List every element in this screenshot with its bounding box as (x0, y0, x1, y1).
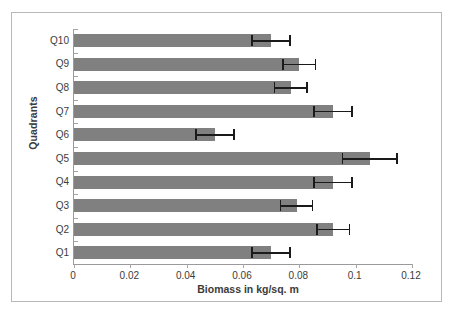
y-tick-label-q2: Q2 (21, 224, 69, 235)
x-axis-tick-labels: 00.020.040.060.080.10.12 (73, 270, 412, 284)
bar-q2 (74, 223, 333, 236)
error-bar-line (274, 87, 308, 89)
error-bar-cap (315, 59, 317, 70)
error-bar-cap (274, 82, 276, 93)
y-tick-label-q9: Q9 (21, 58, 69, 69)
bar-q9 (74, 58, 299, 71)
error-bar-cap (282, 59, 284, 70)
bar-row (74, 147, 412, 171)
error-bar-line (251, 40, 290, 42)
error-bar-cap (289, 247, 291, 258)
bar-q8 (74, 81, 291, 94)
bar-row (74, 123, 412, 147)
error-bar-line (313, 111, 352, 113)
error-bar-cap (233, 129, 235, 140)
error-bar-line (280, 205, 314, 207)
bar-q3 (74, 199, 297, 212)
y-tick-label-q8: Q8 (21, 82, 69, 93)
y-tick-mark (74, 147, 78, 148)
x-tick-mark (74, 264, 75, 268)
error-bar-line (313, 182, 352, 184)
bar-row (74, 76, 412, 100)
x-tick-label-2: 0.04 (164, 270, 208, 282)
y-tick-mark (74, 29, 78, 30)
y-tick-mark (74, 123, 78, 124)
bar-row (74, 100, 412, 124)
error-bar-cap (396, 153, 398, 164)
y-tick-label-q3: Q3 (21, 200, 69, 211)
x-tick-mark (187, 264, 188, 268)
error-bar-cap (251, 35, 253, 46)
error-bar-line (342, 158, 398, 160)
bar-q1 (74, 246, 271, 259)
plot-area (73, 29, 412, 265)
x-tick-mark (412, 264, 413, 268)
x-tick-label-3: 0.06 (220, 270, 264, 282)
error-bar-cap (251, 247, 253, 258)
bar-row (74, 171, 412, 195)
x-tick-mark (130, 264, 131, 268)
x-tick-label-6: 0.12 (389, 270, 433, 282)
error-bar-line (282, 64, 316, 66)
x-axis-title: Biomass in kg/sq. m (73, 283, 423, 295)
y-tick-mark (74, 194, 78, 195)
y-tick-mark (74, 218, 78, 219)
error-bar-line (316, 229, 350, 231)
bar-q7 (74, 105, 333, 118)
error-bar-line (195, 134, 234, 136)
bar-row (74, 218, 412, 242)
error-bar-line (251, 252, 290, 254)
bar-row (74, 194, 412, 218)
bar-q5 (74, 152, 370, 165)
error-bar-cap (195, 129, 197, 140)
y-tick-mark (74, 53, 78, 54)
error-bar-cap (313, 106, 315, 117)
error-bar-cap (313, 177, 315, 188)
y-axis-tick-labels: Q1Q2Q3Q4Q5Q6Q7Q8Q9Q10 (17, 29, 69, 265)
y-tick-label-q1: Q1 (21, 247, 69, 258)
error-bar-cap (351, 177, 353, 188)
y-tick-label-q4: Q4 (21, 176, 69, 187)
error-bar-cap (342, 153, 344, 164)
error-bar-cap (289, 35, 291, 46)
y-tick-mark (74, 76, 78, 77)
error-bar-cap (306, 82, 308, 93)
bar-row (74, 241, 412, 265)
x-tick-label-0: 0 (51, 270, 95, 282)
x-tick-mark (356, 264, 357, 268)
y-tick-mark (74, 171, 78, 172)
y-tick-label-q6: Q6 (21, 129, 69, 140)
error-bar-cap (312, 200, 314, 211)
x-tick-label-1: 0.02 (107, 270, 151, 282)
x-tick-label-5: 0.1 (333, 270, 377, 282)
x-tick-mark (243, 264, 244, 268)
x-tick-label-4: 0.08 (276, 270, 320, 282)
error-bar-cap (349, 224, 351, 235)
biomass-bar-chart: Quadrants Q1Q2Q3Q4Q5Q6Q7Q8Q9Q10 00.020.0… (0, 0, 454, 317)
bar-q6 (74, 128, 215, 141)
error-bar-cap (351, 106, 353, 117)
error-bar-cap (316, 224, 318, 235)
y-tick-mark (74, 241, 78, 242)
bar-q10 (74, 34, 271, 47)
y-tick-label-q7: Q7 (21, 106, 69, 117)
y-tick-mark (74, 100, 78, 101)
chart-frame: Quadrants Q1Q2Q3Q4Q5Q6Q7Q8Q9Q10 00.020.0… (11, 12, 442, 302)
bar-row (74, 29, 412, 53)
bar-row (74, 53, 412, 77)
y-tick-label-q5: Q5 (21, 153, 69, 164)
x-tick-mark (299, 264, 300, 268)
y-tick-label-q10: Q10 (21, 35, 69, 46)
bar-q4 (74, 176, 333, 189)
bars-layer (74, 29, 412, 264)
error-bar-cap (280, 200, 282, 211)
